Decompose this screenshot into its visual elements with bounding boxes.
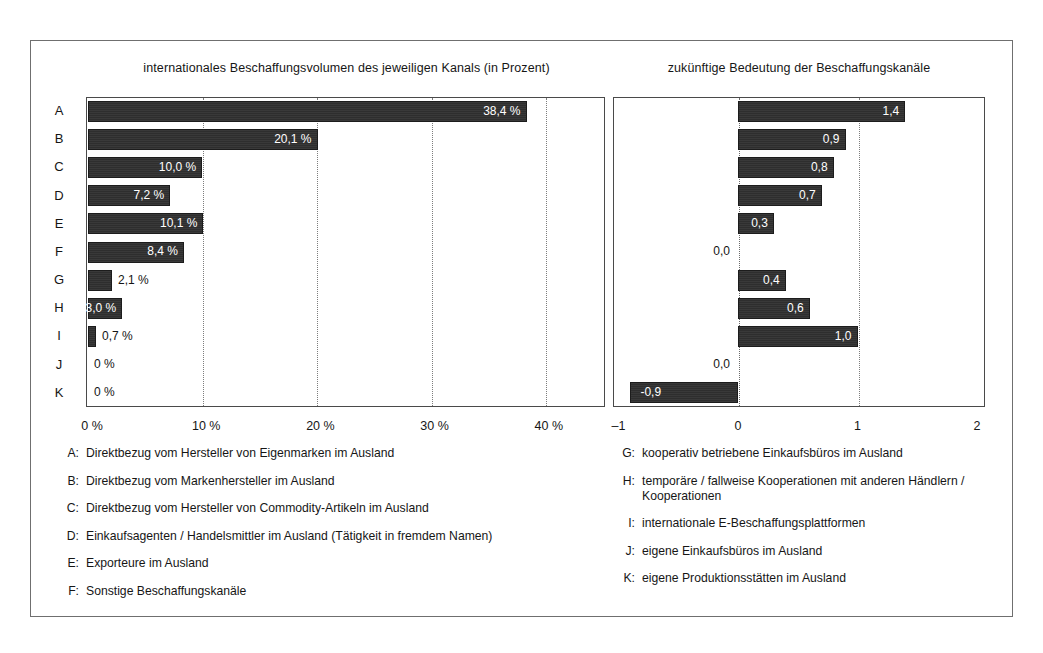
xtick-left-10: 10 % (192, 419, 221, 433)
legend-text: Sonstige Beschaffungskanäle (86, 584, 562, 599)
bar-value-right-G: 0,4 (763, 274, 780, 287)
bar-value-right-I: 1,0 (835, 330, 852, 343)
category-label-C: C (44, 153, 74, 181)
legend-text: internationale E-Beschaffungsplattformen (642, 516, 993, 531)
legend-text: eigene Produktionsstätten im Ausland (642, 571, 993, 586)
legend-item-G: G:kooperativ betriebene Einkaufsbüros im… (618, 446, 993, 461)
legend-item-D: D:Einkaufsagenten / Handelsmittler im Au… (62, 529, 562, 544)
category-label-A: A (44, 97, 74, 125)
legend-text: kooperativ betriebene Einkaufsbüros im A… (642, 446, 993, 461)
bar-left-G (88, 270, 112, 291)
category-label-B: B (44, 125, 74, 153)
category-label-E: E (44, 210, 74, 238)
legend-text: Direktbezug vom Hersteller von Commodity… (86, 501, 562, 516)
category-label-D: D (44, 182, 74, 210)
bar-value-left-K: 0 % (94, 386, 115, 399)
legend-key: G: (618, 446, 635, 461)
legend-key: B: (62, 474, 79, 489)
bar-value-right-B: 0,9 (823, 133, 840, 146)
legend-item-H: H:temporäre / fallweise Kooperationen mi… (618, 474, 993, 504)
legend-right: G:kooperativ betriebene Einkaufsbüros im… (618, 446, 993, 599)
legend-key: D: (62, 529, 79, 544)
bar-value-left-G: 2,1 % (118, 274, 149, 287)
xtick-right-0: 0 (735, 419, 742, 433)
bar-value-left-A: 38,4 % (483, 105, 520, 118)
category-label-H: H (44, 294, 74, 322)
legend-text: Exporteure im Ausland (86, 556, 562, 571)
bar-left-A (88, 101, 527, 122)
gridline-x-1 (859, 98, 860, 406)
category-label-G: G (44, 266, 74, 294)
bar-right-A (738, 101, 905, 122)
left-chart-title: internationales Beschaffungsvolumen des … (88, 61, 605, 75)
legend-key: F: (62, 584, 79, 599)
bar-value-left-B: 20,1 % (274, 133, 311, 146)
legend-key: E: (62, 556, 79, 571)
bar-value-right-K: -0,9 (640, 386, 661, 399)
legend-text: Direktbezug vom Hersteller von Eigenmark… (86, 446, 562, 461)
bar-value-right-E: 0,3 (751, 217, 768, 230)
legend-key: K: (618, 571, 635, 586)
legend-key: I: (618, 516, 635, 531)
category-label-K: K (44, 379, 74, 407)
bar-value-left-D: 7,2 % (134, 189, 165, 202)
bar-value-left-F: 8,4 % (147, 245, 178, 258)
legend-key: C: (62, 501, 79, 516)
legend-text: Direktbezug vom Markenhersteller im Ausl… (86, 474, 562, 489)
legend-text: temporäre / fallweise Kooperationen mit … (642, 474, 993, 504)
bar-value-right-J: 0,0 (713, 358, 730, 371)
bar-value-left-I: 0,7 % (102, 330, 133, 343)
legend-item-F: F:Sonstige Beschaffungskanäle (62, 584, 562, 599)
legend-item-J: J:eigene Einkaufsbüros im Ausland (618, 544, 993, 559)
legend-left: A:Direktbezug vom Hersteller von Eigenma… (62, 446, 562, 611)
legend-item-C: C:Direktbezug vom Hersteller von Commodi… (62, 501, 562, 516)
bar-value-right-D: 0,7 (799, 189, 816, 202)
legend-item-K: K:eigene Produktionsstätten im Ausland (618, 571, 993, 586)
xtick-left-0: 0 % (81, 419, 103, 433)
xtick-right-1: 1 (854, 419, 861, 433)
legend-text: Einkaufsagenten / Handelsmittler im Ausl… (86, 529, 562, 544)
legend-key: J: (618, 544, 635, 559)
xtick-left-20: 20 % (306, 419, 335, 433)
legend-item-I: I:internationale E-Beschaffungsplattform… (618, 516, 993, 531)
bar-value-left-E: 10,1 % (160, 217, 197, 230)
right-chart-title: zukünftige Bedeutung der Beschaffungskan… (613, 61, 985, 75)
bar-value-left-H: 3,0 % (86, 302, 117, 315)
bar-left-I (88, 326, 96, 347)
gridline-x-20 (317, 98, 318, 406)
xtick-right--1: –1 (612, 419, 626, 433)
legend-text: eigene Einkaufsbüros im Ausland (642, 544, 993, 559)
gridline-x-30 (432, 98, 433, 406)
bar-value-right-C: 0,8 (811, 161, 828, 174)
legend-key: H: (618, 474, 635, 504)
legend-item-A: A:Direktbezug vom Hersteller von Eigenma… (62, 446, 562, 461)
category-label-I: I (44, 322, 74, 350)
bar-value-left-J: 0 % (94, 358, 115, 371)
legend-key: A: (62, 446, 79, 461)
xtick-left-30: 30 % (420, 419, 449, 433)
gridline-x-40 (546, 98, 547, 406)
xtick-left-40: 40 % (535, 419, 564, 433)
bar-value-right-A: 1,4 (883, 105, 900, 118)
bar-value-right-H: 0,6 (787, 302, 804, 315)
bar-value-right-F: 0,0 (713, 245, 730, 258)
bar-value-left-C: 10,0 % (159, 161, 196, 174)
legend-item-B: B:Direktbezug vom Markenhersteller im Au… (62, 474, 562, 489)
category-label-J: J (44, 351, 74, 379)
category-label-F: F (44, 238, 74, 266)
xtick-right-2: 2 (974, 419, 981, 433)
legend-item-E: E:Exporteure im Ausland (62, 556, 562, 571)
